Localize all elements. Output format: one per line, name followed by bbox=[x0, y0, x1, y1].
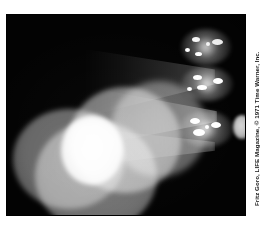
lamp-lower-2 bbox=[205, 125, 209, 129]
beam-low bbox=[77, 119, 215, 167]
disc-bottom bbox=[35, 121, 157, 215]
beam-mid bbox=[99, 87, 217, 145]
lamp-middle-3 bbox=[197, 85, 207, 90]
disc-right bbox=[69, 87, 181, 193]
lamp-lower-4 bbox=[193, 129, 205, 136]
lamp-glow-middle bbox=[181, 67, 233, 101]
lamp-glow-top bbox=[181, 29, 231, 65]
lamp-glow-lower bbox=[179, 111, 233, 147]
lamp-top-2 bbox=[206, 42, 210, 46]
lamp-middle-4 bbox=[187, 87, 192, 91]
blob-right bbox=[233, 115, 245, 139]
figure-container: Fritz Goro, LIFE Magazine, © 1971 Time W… bbox=[0, 0, 273, 229]
disc-left bbox=[13, 109, 125, 209]
lamp-lower-1 bbox=[190, 118, 200, 124]
lamp-middle-2 bbox=[213, 78, 223, 84]
lamp-middle-1 bbox=[193, 75, 202, 80]
disc-white bbox=[61, 115, 123, 185]
lamp-top-5 bbox=[195, 52, 202, 56]
lamp-top-3 bbox=[212, 39, 223, 45]
disc-back bbox=[111, 81, 207, 177]
photo-credit: Fritz Goro, LIFE Magazine, © 1971 Time W… bbox=[251, 26, 262, 206]
photograph bbox=[7, 15, 245, 215]
lamp-top-4 bbox=[185, 48, 190, 52]
lamp-lower-3 bbox=[211, 122, 221, 128]
lamp-top-1 bbox=[192, 37, 200, 42]
beam-top bbox=[85, 49, 215, 117]
